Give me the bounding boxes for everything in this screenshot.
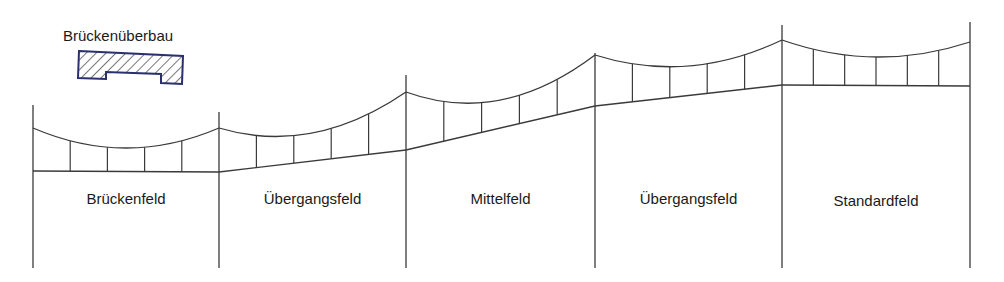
bridge-deck — [595, 85, 782, 106]
main-cable — [782, 40, 970, 57]
bridge-deck — [33, 171, 219, 172]
bridge-deck — [219, 150, 406, 172]
bridge-deck — [406, 106, 595, 150]
main-cable — [219, 92, 406, 137]
main-cable — [33, 128, 219, 148]
deck-cross-section-icon — [78, 51, 183, 84]
field-label: Brückenfeld — [86, 190, 165, 207]
field-label: Übergangsfeld — [640, 190, 738, 207]
field-label: Mittelfeld — [470, 190, 530, 207]
main-cable — [406, 55, 595, 103]
main-cable — [595, 40, 782, 67]
field-label: Übergangsfeld — [264, 190, 362, 207]
legend-title: Brückenüberbau — [63, 27, 173, 44]
field-label: Standardfeld — [833, 192, 918, 209]
